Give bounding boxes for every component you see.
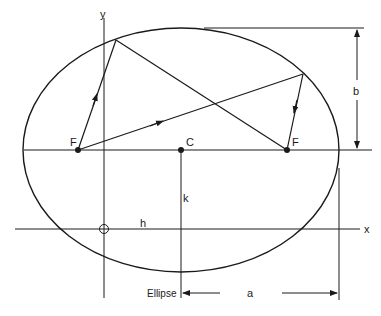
- caption-label: Ellipse: [147, 288, 177, 299]
- a-label: a: [247, 287, 254, 299]
- b-label: b: [353, 85, 359, 97]
- center-dot: [178, 147, 184, 153]
- y-axis-label: y: [100, 8, 106, 20]
- ellipse-diagram: y x F C F k h a b Ellipse: [0, 0, 381, 316]
- x-axis-label: x: [364, 223, 370, 235]
- arrow-up-left-ray: [93, 94, 97, 106]
- center-label: C: [186, 136, 194, 148]
- ray-p1-to-f2: [116, 40, 287, 150]
- focus-right-label: F: [292, 136, 299, 148]
- k-label: k: [183, 192, 189, 204]
- h-label: h: [140, 217, 146, 229]
- focus-left-label: F: [70, 136, 77, 148]
- arrow-right-middle-ray: [150, 121, 163, 126]
- focus-right-dot: [284, 147, 290, 153]
